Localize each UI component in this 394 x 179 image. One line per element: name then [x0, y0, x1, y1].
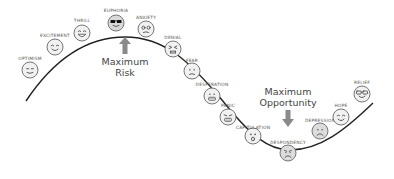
emotion-cycle-diagram: OptimismExcitementThrillEuphoriaAnxietyD…: [0, 0, 394, 179]
callout-max-opportunity-line: Opportunity: [259, 97, 316, 108]
emotion-label-capitulation: Capitulation: [236, 125, 270, 130]
arrow-up-icon: [119, 37, 131, 54]
emotion-face-anxiety-icon: [138, 21, 155, 38]
emotion-label-euphoria: Euphoria: [104, 8, 128, 13]
emotion-label-fear: Fear: [186, 58, 198, 63]
emotion-face-thrill-icon: [74, 25, 91, 42]
emotion-label-anxiety: Anxiety: [136, 15, 156, 20]
callout-max-risk-line: Risk: [102, 67, 149, 78]
emotion-face-euphoria-icon: [108, 15, 125, 32]
emotion-label-relief: Relief: [354, 80, 370, 85]
emotion-label-hope: Hope: [335, 103, 348, 108]
emotion-face-capitulation-icon: [245, 128, 262, 145]
callout-max-opportunity: MaximumOpportunity: [259, 86, 316, 108]
emotion-face-despondency-icon: [280, 145, 297, 162]
emotion-label-denial: Denial: [164, 35, 181, 40]
emotion-label-thrill: Thrill: [74, 18, 90, 23]
emotion-face-optimism-icon: [22, 62, 39, 79]
emotion-label-optimism: Optimism: [18, 56, 41, 61]
emotion-label-depression: Depression: [305, 118, 335, 123]
emotion-label-despondency: Despondency: [270, 140, 306, 145]
market-cycle-curve: [0, 0, 394, 179]
emotion-face-relief-icon: [354, 86, 371, 103]
callout-max-risk-line: Maximum: [102, 56, 149, 67]
callout-max-opportunity-line: Maximum: [259, 86, 316, 97]
emotion-face-fear-icon: [184, 63, 201, 80]
emotion-face-depression-icon: [312, 123, 329, 140]
emotion-face-panic-icon: [220, 109, 237, 126]
emotion-label-excitement: Excitement: [40, 33, 70, 38]
arrow-down-icon: [282, 110, 294, 127]
callout-max-risk: MaximumRisk: [102, 56, 149, 78]
emotion-face-desperation-icon: [204, 88, 221, 105]
emotion-face-denial-icon: [165, 41, 182, 58]
emotion-label-desperation: Desperation: [196, 82, 229, 87]
emotion-label-panic: Panic: [221, 103, 235, 108]
emotion-face-hope-icon: [333, 109, 350, 126]
emotion-face-excitement-icon: [47, 39, 64, 56]
